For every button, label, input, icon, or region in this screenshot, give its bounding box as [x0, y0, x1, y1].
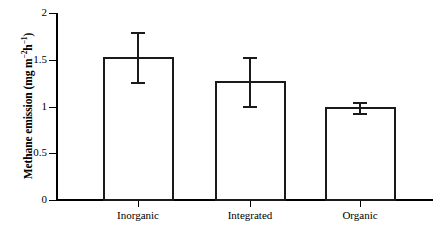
y-axis-title-mid: h [22, 44, 34, 50]
y-axis-title-exponent-hour: −1 [20, 37, 29, 45]
error-bar-cap-lower-inorganic [131, 82, 145, 84]
error-bar-cap-upper-inorganic [131, 32, 145, 34]
y-axis-tick-label: 0 [3, 194, 49, 205]
x-axis-tick [360, 201, 361, 207]
error-bar-line-integrated [249, 57, 251, 106]
methane-emission-bar-chart: Methane emission (mg m−2h−1) 00.511.52In… [0, 0, 443, 235]
x-axis-tick [250, 201, 251, 207]
y-axis-tick-label-wrap: 1.5 [0, 54, 49, 65]
y-axis-tick [49, 153, 56, 154]
error-bar-cap-upper-integrated [243, 57, 257, 59]
y-axis-tick-label-wrap: 2 [0, 7, 49, 18]
y-axis-tick-label: 1.5 [3, 54, 49, 65]
error-bar-line-inorganic [137, 32, 139, 82]
y-axis-tick [49, 107, 56, 108]
y-axis-tick-label: 1 [3, 101, 49, 112]
y-axis-tick-label-wrap: 0 [0, 194, 49, 205]
x-axis-tick-label-integrated: Integrated [190, 209, 310, 222]
y-axis-tick [49, 13, 56, 14]
x-axis-tick-label-inorganic: Inorganic [78, 209, 198, 222]
error-bar-cap-upper-organic [353, 102, 367, 104]
y-axis-tick-label: 0.5 [3, 147, 49, 158]
x-axis-tick-label-organic: Organic [300, 209, 420, 222]
error-bar-cap-lower-integrated [243, 106, 257, 108]
y-axis-tick-label-wrap: 1 [0, 101, 49, 112]
y-axis-title-end: ) [22, 33, 34, 37]
y-axis-line [56, 13, 58, 201]
x-axis-tick [138, 201, 139, 207]
y-axis-title-main: Methane emission (mg m [22, 58, 34, 179]
bar-organic [325, 107, 396, 201]
y-axis-tick-label-wrap: 0.5 [0, 147, 49, 158]
y-axis-tick [49, 200, 56, 201]
y-axis-tick [49, 60, 56, 61]
error-bar-cap-lower-organic [353, 113, 367, 115]
y-axis-tick-label: 2 [3, 7, 49, 18]
